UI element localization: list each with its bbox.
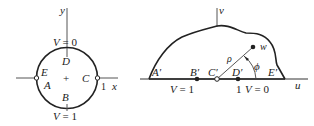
point-left-open [34,76,38,80]
e-prime-label: E′ [267,66,278,78]
point-c-label: C [82,72,90,84]
a-prime-label: A′ [151,66,162,78]
v1-label: V = 1 [170,83,194,95]
bottom-boundary-label: V = 1 [53,110,77,122]
diagram-canvas: y V = 0 D E A + C B 1 x V = 1 v w ρ ϕ A′… [0,0,314,126]
point-b-label: B [62,91,69,103]
rho-label: ρ [226,53,232,64]
one-tick-label: 1 [236,83,242,95]
w-label: w [260,41,267,52]
v-axis-label: v [219,4,224,16]
y-axis-label: y [59,4,65,16]
point-right-open [95,76,99,80]
phi-label: ϕ [254,60,260,72]
d-prime-label: D′ [231,66,243,78]
top-boundary-label: V = 0 [53,36,77,48]
left-figure: y V = 0 D E A + C B 1 x V = 1 [16,4,118,122]
point-w [251,45,256,50]
unit-tick-label: 1 [101,81,106,92]
center-mark: + [63,72,69,84]
u-axis-label: u [295,79,301,91]
c-prime-label: C′ [208,66,218,78]
point-e-label: E [40,66,48,78]
point-d-label: D [61,55,70,67]
x-axis-label: x [111,80,117,92]
right-figure: v w ρ ϕ A′ B′ C′ D′ E′ V = 1 1 V = 0 u [140,4,308,95]
v0-label: V = 0 [245,83,269,95]
b-prime-label: B′ [190,66,200,78]
point-a-label: A [43,79,51,91]
